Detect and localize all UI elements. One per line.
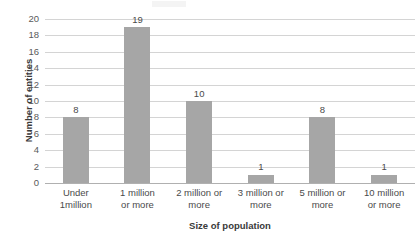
bar[interactable]	[248, 175, 274, 183]
bar-slot: 1	[230, 19, 292, 183]
x-axis-category-label-line: 5 million or	[292, 187, 354, 199]
bar[interactable]	[186, 101, 212, 183]
y-axis-tick-label: 6	[1, 129, 39, 139]
bar-slot: 1	[353, 19, 415, 183]
y-axis-tick-label: 0	[1, 178, 39, 188]
x-axis-category-label: 3 million ormore	[230, 187, 292, 210]
x-axis-category-label-line: 10 million	[353, 187, 415, 199]
bar[interactable]	[309, 117, 335, 183]
y-axis-tick-label: 20	[1, 14, 39, 24]
y-axis-tick-label: 2	[1, 162, 39, 172]
x-axis-category-label-line: more	[292, 199, 354, 211]
y-axis-tick-label: 10	[1, 96, 39, 106]
bar-value-label: 1	[382, 162, 387, 172]
x-axis-title: Size of population	[45, 220, 415, 231]
x-axis-category-label-line: 3 million or	[230, 187, 292, 199]
y-axis-tick-label: 14	[1, 63, 39, 73]
x-axis-category-label: 5 million ormore	[292, 187, 354, 210]
bar[interactable]	[124, 27, 150, 183]
bar-series: 81910181	[45, 19, 415, 183]
bar-value-label: 19	[132, 15, 143, 25]
bar-value-label: 8	[320, 105, 325, 115]
y-axis-tick-label: 12	[1, 80, 39, 90]
x-axis-category-label-line: 2 million or	[168, 187, 230, 199]
bar-slot: 8	[45, 19, 107, 183]
axis-baseline	[45, 183, 415, 184]
x-axis-category-label-line: 1 million	[107, 187, 169, 199]
x-axis-category-label-line: more	[230, 199, 292, 211]
bar[interactable]	[371, 175, 397, 183]
x-axis-category-label: 1 millionor more	[107, 187, 169, 210]
x-axis-category-label-line: more	[168, 199, 230, 211]
x-axis-category-label: 2 million ormore	[168, 187, 230, 210]
bar-chart: Number of entities 20181614121086420 819…	[0, 0, 419, 241]
plot-area: 81910181	[45, 19, 415, 183]
y-axis-tick-label: 8	[1, 113, 39, 123]
bar-value-label: 8	[73, 105, 78, 115]
bar-slot: 8	[292, 19, 354, 183]
x-axis-category-label: Under1million	[45, 187, 107, 210]
x-axis-category-label-line: 1million	[45, 199, 107, 211]
y-axis-tick-label: 16	[1, 47, 39, 57]
y-axis-tick-label: 18	[1, 31, 39, 41]
y-axis-tick-label: 4	[1, 145, 39, 155]
x-axis-category-label-line: or more	[107, 199, 169, 211]
x-axis-category-label-line: or more	[353, 199, 415, 211]
bar[interactable]	[63, 117, 89, 183]
bar-value-label: 10	[194, 89, 205, 99]
scan-artifact	[152, 1, 186, 7]
x-axis-category-label: 10 millionor more	[353, 187, 415, 210]
bar-value-label: 1	[258, 162, 263, 172]
bar-slot: 19	[107, 19, 169, 183]
x-axis-category-label-line: Under	[45, 187, 107, 199]
bar-slot: 10	[168, 19, 230, 183]
y-axis-ticks: 20181614121086420	[0, 0, 42, 241]
x-axis-labels: Under1million1 millionor more2 million o…	[45, 187, 415, 217]
